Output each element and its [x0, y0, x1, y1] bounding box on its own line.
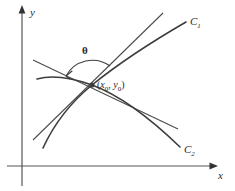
x-axis-label: x [218, 170, 223, 181]
figure-container: y x C1 C2 θ (x0, y0) [0, 0, 235, 191]
curve-c2-label: C2 [184, 144, 195, 158]
curve-c2-subscript: 2 [191, 150, 195, 158]
intersection-point-marker [89, 82, 94, 87]
y-axis-label: y [30, 7, 35, 18]
curve-c1-label: C1 [190, 16, 201, 30]
x-axis [7, 163, 218, 170]
x-axis-arrowhead [210, 163, 219, 170]
point-paren-close: ) [121, 79, 124, 90]
y-axis-arrowhead [19, 5, 26, 14]
curve-c1-subscript: 1 [197, 22, 201, 30]
intersection-point-label: (x0, y0) [97, 80, 125, 93]
angle-theta-label: θ [82, 45, 88, 56]
angle-arc [66, 60, 110, 76]
y-axis [19, 5, 26, 186]
